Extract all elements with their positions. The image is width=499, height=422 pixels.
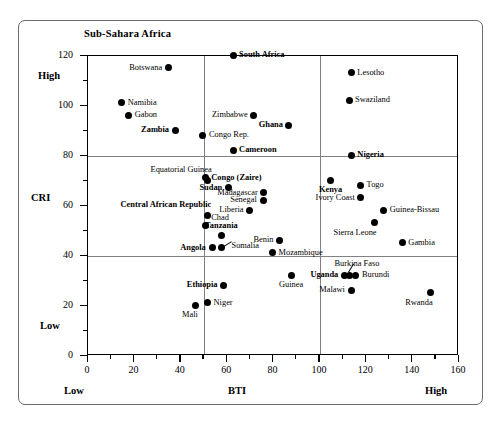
y-tick-minor xyxy=(83,180,87,181)
y-tick-major xyxy=(80,305,87,306)
data-point[interactable] xyxy=(260,197,267,204)
data-point-label: Angola xyxy=(180,244,206,252)
x-tick-minor xyxy=(342,355,343,359)
data-point[interactable] xyxy=(220,282,227,289)
data-point[interactable] xyxy=(260,189,267,196)
data-point-label: Somalia xyxy=(231,242,258,250)
data-point-label: Central African Republic xyxy=(121,201,212,209)
data-point[interactable] xyxy=(327,177,334,184)
x-tick-minor xyxy=(295,355,296,359)
y-tick-minor xyxy=(83,230,87,231)
data-point[interactable] xyxy=(125,112,132,119)
data-point[interactable] xyxy=(276,237,283,244)
data-point[interactable] xyxy=(341,272,348,279)
data-point[interactable] xyxy=(202,174,209,181)
data-point[interactable] xyxy=(230,147,237,154)
x-tick-minor xyxy=(388,355,389,359)
x-tick-minor xyxy=(249,355,250,359)
data-point-label: Sierra Leone xyxy=(334,229,377,237)
y-tick-minor xyxy=(83,130,87,131)
x-tick-major xyxy=(179,355,180,362)
x-tick-major xyxy=(318,355,319,362)
data-point-label: Swaziland xyxy=(355,96,390,104)
data-point-label: Burkina Faso xyxy=(335,260,380,268)
data-point-label: Rwanda xyxy=(405,299,432,307)
y-tick-label: 120 xyxy=(39,49,73,60)
data-point-label: Zimbabwe xyxy=(212,111,248,119)
data-point-label: Tanzania xyxy=(205,222,238,230)
data-point[interactable] xyxy=(357,182,364,189)
data-point[interactable] xyxy=(199,132,206,139)
reference-line-horizontal xyxy=(88,156,457,157)
y-tick-major xyxy=(80,55,87,56)
x-tick-major xyxy=(272,355,273,362)
data-point[interactable] xyxy=(250,112,257,119)
data-point-label: Mozambique xyxy=(279,249,323,257)
data-point[interactable] xyxy=(246,207,253,214)
data-point-label: Congo Rep. xyxy=(209,131,249,139)
reference-line-horizontal xyxy=(88,256,457,257)
data-point[interactable] xyxy=(204,299,211,306)
data-point[interactable] xyxy=(371,219,378,226)
data-point[interactable] xyxy=(380,207,387,214)
x-tick-label: 60 xyxy=(211,364,241,375)
data-point[interactable] xyxy=(399,239,406,246)
y-tick-label: 100 xyxy=(39,99,73,110)
data-point-label: Cameroon xyxy=(239,146,277,154)
y-tick-label: 0 xyxy=(39,349,73,360)
x-tick-label: 80 xyxy=(258,364,288,375)
data-point[interactable] xyxy=(348,69,355,76)
y-tick-major xyxy=(80,255,87,256)
data-point-label: Namibia xyxy=(128,99,157,107)
data-point-label: Equatorial Guinea xyxy=(151,166,212,174)
data-point[interactable] xyxy=(209,244,216,251)
data-point-label: South Africa xyxy=(239,51,284,59)
y-tick-label: 20 xyxy=(39,299,73,310)
x-axis-high-label: High xyxy=(425,385,447,396)
x-tick-major xyxy=(87,355,88,362)
data-point[interactable] xyxy=(348,152,355,159)
data-point-label: Congo (Zaire) xyxy=(211,174,261,182)
y-axis-low-label: Low xyxy=(40,320,60,331)
data-point[interactable] xyxy=(285,122,292,129)
y-tick-label: 80 xyxy=(39,149,73,160)
data-point[interactable] xyxy=(172,127,179,134)
x-tick-minor xyxy=(202,355,203,359)
x-axis-low-label: Low xyxy=(64,385,84,396)
data-point[interactable] xyxy=(346,97,353,104)
y-tick-minor xyxy=(83,80,87,81)
y-tick-minor xyxy=(83,330,87,331)
data-point-label: Ghana xyxy=(259,121,283,129)
data-point-label: Botswana xyxy=(129,64,162,72)
data-point-label: Niger xyxy=(214,299,233,307)
x-tick-label: 0 xyxy=(72,364,102,375)
x-tick-major xyxy=(133,355,134,362)
x-tick-label: 20 xyxy=(118,364,148,375)
y-tick-major xyxy=(80,205,87,206)
data-point[interactable] xyxy=(288,272,295,279)
data-point-label: Ethiopia xyxy=(187,281,218,289)
data-point-label: Guinea xyxy=(279,281,303,289)
reference-line-vertical xyxy=(320,56,321,354)
data-point-label: Uganda xyxy=(310,271,338,279)
x-tick-major xyxy=(226,355,227,362)
data-point-label: Togo xyxy=(367,181,384,189)
x-tick-label: 100 xyxy=(304,364,334,375)
x-tick-label: 40 xyxy=(165,364,195,375)
data-point[interactable] xyxy=(230,52,237,59)
data-point[interactable] xyxy=(204,212,211,219)
data-point[interactable] xyxy=(427,289,434,296)
data-point-label: Mali xyxy=(182,311,198,319)
x-tick-label: 120 xyxy=(350,364,380,375)
data-point[interactable] xyxy=(165,64,172,71)
chart-title: Sub-Sahara Africa xyxy=(84,28,171,39)
data-point-label: Gabon xyxy=(135,111,157,119)
y-tick-major xyxy=(80,105,87,106)
data-point-label: Ivory Coast xyxy=(316,194,355,202)
data-point[interactable] xyxy=(218,232,225,239)
y-tick-major xyxy=(80,155,87,156)
data-point-label: Senegal xyxy=(230,196,257,204)
data-point[interactable] xyxy=(269,249,276,256)
x-tick-major xyxy=(458,355,459,362)
data-point[interactable] xyxy=(348,287,355,294)
